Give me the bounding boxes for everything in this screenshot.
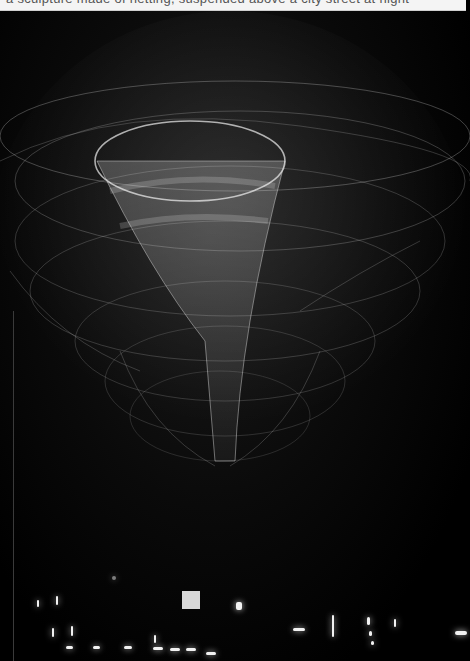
city-light (124, 646, 132, 649)
city-light (455, 631, 467, 635)
city-light (71, 626, 73, 636)
city-light (369, 631, 372, 636)
city-light (56, 596, 58, 605)
lit-window (182, 591, 200, 609)
city-light (206, 652, 216, 655)
city-light (394, 619, 396, 627)
city-light (371, 641, 374, 645)
city-light (186, 648, 196, 651)
city-light (170, 648, 180, 651)
city-light (332, 615, 334, 637)
city-light (236, 602, 242, 610)
pole (13, 311, 14, 661)
city-light (112, 576, 116, 580)
city-light (93, 646, 100, 649)
caption-text: a sculpture made of netting, suspended a… (6, 0, 409, 6)
net-sculpture (0, 11, 470, 661)
night-photo (0, 11, 470, 661)
city-light (153, 647, 163, 650)
city-light (66, 646, 73, 649)
city-light (52, 628, 54, 637)
city-light (293, 628, 305, 631)
caption-strip: a sculpture made of netting, suspended a… (0, 0, 466, 11)
city-light (367, 617, 370, 625)
city-light (37, 600, 39, 607)
city-light (154, 635, 156, 643)
